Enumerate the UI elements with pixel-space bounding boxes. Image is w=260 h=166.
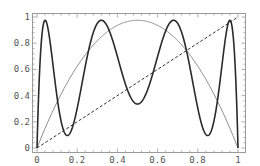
x-tick-label: 0 <box>34 155 39 165</box>
chart: 0 0.2 0.4 0.6 0.8 1 0 0.2 0.4 0.6 0.8 1 <box>0 0 260 166</box>
y-tick-label: 0.6 <box>14 64 30 74</box>
y-tick-label: 0 <box>25 143 30 153</box>
x-axis-tick-labels: 0 0.2 0.4 0.6 0.8 1 <box>34 155 240 165</box>
y-tick-label: 0.2 <box>14 117 30 127</box>
y-tick-label: 0.8 <box>14 38 30 48</box>
x-tick-label: 0.6 <box>149 155 165 165</box>
x-tick-label: 0.2 <box>69 155 85 165</box>
y-tick-label: 0.4 <box>14 91 30 101</box>
x-tick-label: 0.8 <box>189 155 205 165</box>
y-axis-tick-labels: 0 0.2 0.4 0.6 0.8 1 <box>14 12 30 153</box>
x-tick-label: 0.4 <box>109 155 125 165</box>
y-tick-label: 1 <box>25 12 30 22</box>
x-tick-label: 1 <box>235 155 240 165</box>
